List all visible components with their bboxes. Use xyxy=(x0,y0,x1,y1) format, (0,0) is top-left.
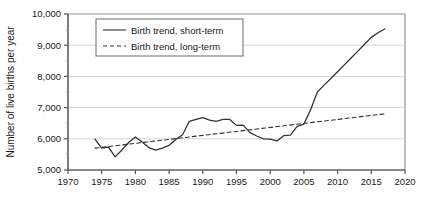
x-tick-label-group: 1970197519801985199019952000200520102015… xyxy=(57,176,415,187)
x-tick-label-1995: 1995 xyxy=(226,176,247,187)
x-tick-label-1975: 1975 xyxy=(91,176,112,187)
y-tick-label-group: 5,0006,0007,0008,0009,00010,000 xyxy=(32,8,61,175)
y-axis-title: Number of live births per year xyxy=(5,26,16,158)
y-tick-label-6000: 6,000 xyxy=(37,133,61,144)
x-tick-label-2000: 2000 xyxy=(260,176,281,187)
legend-label-long-term: Birth trend, long-term xyxy=(131,41,220,52)
legend-label-short-term: Birth trend, short-term xyxy=(131,25,223,36)
x-tick-label-2015: 2015 xyxy=(361,176,382,187)
y-tick-label-8000: 8,000 xyxy=(37,71,61,82)
chart-legend: Birth trend, short-term Birth trend, lon… xyxy=(96,19,243,56)
y-tick-label-7000: 7,000 xyxy=(37,102,61,113)
x-tick-label-1980: 1980 xyxy=(125,176,146,187)
x-tick-label-1985: 1985 xyxy=(159,176,180,187)
y-tick-label-5000: 5,000 xyxy=(37,164,61,175)
y-tick-label-10000: 10,000 xyxy=(32,8,61,19)
chart-container: 5,0006,0007,0008,0009,00010,000 19701975… xyxy=(0,0,431,203)
x-tick-label-2020: 2020 xyxy=(394,176,415,187)
birth-trend-line-chart: 5,0006,0007,0008,0009,00010,000 19701975… xyxy=(0,0,431,203)
x-tick-label-2010: 2010 xyxy=(327,176,348,187)
y-tick-label-9000: 9,000 xyxy=(37,40,61,51)
x-tick-label-2005: 2005 xyxy=(293,176,314,187)
x-tick-label-1990: 1990 xyxy=(192,176,213,187)
x-tick-label-1970: 1970 xyxy=(57,176,78,187)
x-tick-group xyxy=(68,170,405,174)
